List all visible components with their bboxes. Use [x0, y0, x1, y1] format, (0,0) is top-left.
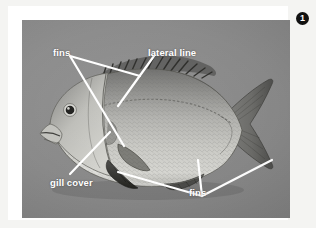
callout-label-fins-bottom: fins — [189, 188, 206, 198]
callout-label-gill-cover: gill cover — [50, 178, 93, 188]
figure-number-badge: 1 — [296, 12, 309, 25]
eye-highlight — [67, 107, 70, 110]
callout-label-fins-top: fins — [53, 48, 70, 58]
photo-frame: fins lateral line gill cover fins — [8, 6, 288, 220]
eye-pupil — [66, 106, 75, 115]
callout-label-lateral-line: lateral line — [148, 48, 196, 58]
figure-panel: fins lateral line gill cover fins 1 — [0, 0, 316, 228]
fish-photograph: fins lateral line gill cover fins — [22, 20, 290, 218]
